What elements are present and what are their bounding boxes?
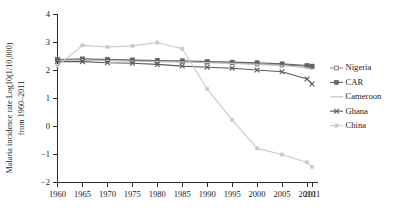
legend-item-car[interactable]: CAR — [330, 77, 363, 87]
y-tick-label: 3 — [46, 37, 50, 47]
x-tick-label: 1980 — [149, 189, 166, 199]
y-tick-label: 1 — [46, 93, 50, 103]
series-marker-china — [206, 87, 209, 90]
series-marker-china — [181, 47, 184, 50]
series-marker-china — [256, 147, 259, 150]
series-marker-china — [106, 45, 109, 48]
series-marker-car — [305, 64, 309, 68]
y-tick-label: 4 — [46, 9, 51, 19]
legend-item-label: China — [346, 120, 367, 130]
malaria-incidence-line-chart: Malaria incidence rate Log10(1/10,000) f… — [0, 0, 413, 217]
legend-item-nigeria[interactable]: Nigeria — [330, 62, 371, 72]
x-tick-label: 2000 — [249, 189, 266, 199]
x-tick-label: 1970 — [99, 189, 116, 199]
legend-item-label: CAR — [346, 77, 364, 87]
y-axis-ticks: 43210−1−2 — [41, 9, 58, 187]
x-axis-ticks: 1960196519701975198019851990199520002005… — [49, 183, 320, 200]
x-tick-label: 1960 — [49, 189, 66, 199]
series-marker-china — [56, 64, 59, 67]
x-tick-label: 1990 — [199, 189, 216, 199]
legend-swatch-marker — [335, 124, 338, 127]
legend-swatch-marker — [335, 80, 339, 84]
chart-legend: NigeriaCARCameroonGhanaChina — [330, 62, 382, 130]
x-tick-label: 1975 — [124, 189, 141, 199]
series-marker-china — [131, 44, 134, 47]
legend-item-china[interactable]: China — [330, 120, 366, 130]
y-axis-title-line2: from 1960–2011 — [17, 81, 26, 136]
legend-swatch-marker — [335, 66, 339, 70]
series-marker-china — [231, 118, 234, 121]
series-marker-china — [305, 161, 308, 164]
y-tick-label: 0 — [46, 121, 50, 131]
chart-container: Malaria incidence rate Log10(1/10,000) f… — [0, 0, 413, 217]
y-tick-label: −1 — [41, 149, 50, 159]
y-tick-label: −2 — [41, 177, 50, 187]
x-tick-label: 2011 — [304, 189, 321, 199]
series-marker-china — [156, 41, 159, 44]
legend-item-cameroon[interactable]: Cameroon — [330, 91, 382, 101]
legend-item-label: Cameroon — [346, 91, 383, 101]
x-tick-label: 1985 — [174, 189, 191, 199]
y-axis-title-line1: Malaria incidence rate Log10(1/10,000) — [5, 42, 14, 173]
x-tick-label: 1995 — [224, 189, 241, 199]
legend-item-label: Ghana — [346, 106, 369, 116]
legend-item-ghana[interactable]: Ghana — [330, 106, 368, 116]
series-marker-car — [310, 64, 314, 68]
series-marker-china — [81, 44, 84, 47]
y-axis-title: Malaria incidence rate Log10(1/10,000) f… — [5, 42, 26, 173]
legend-item-label: Nigeria — [346, 62, 372, 72]
y-tick-label: 2 — [46, 65, 50, 75]
x-tick-label: 1965 — [74, 189, 91, 199]
data-series-group — [55, 41, 314, 169]
series-marker-china — [310, 165, 313, 168]
series-marker-china — [280, 153, 283, 156]
x-tick-label: 2005 — [274, 189, 291, 199]
